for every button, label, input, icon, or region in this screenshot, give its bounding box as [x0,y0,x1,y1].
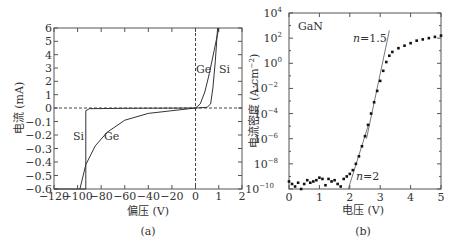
n-value: =2 [363,170,379,183]
label-si-forward: Si [219,63,231,76]
figure: −120−100−80−60−40−200126543210−0.1−0.2−0… [0,0,457,247]
y-tick-label-b: 102 [264,31,282,45]
y-tick-label-a: 6 [45,22,52,35]
data-point [382,70,385,73]
y-tick-exponent: −10 [259,182,274,190]
data-point [409,42,412,45]
data-point [397,47,400,50]
data-point [345,175,348,178]
data-point [367,124,370,127]
x-tick-label-b: 2 [346,191,353,204]
y-tick-label-a: −0.1 [25,116,52,129]
data-point [403,44,406,47]
x-tick-label-a: −100 [62,190,92,203]
y-tick-exponent: −8 [268,157,278,165]
y-tick-label-a: 4 [45,49,52,62]
y-tick-label-a: 5 [45,35,52,48]
x-tick-label-a: −80 [90,190,113,203]
y-axis-label-b: 电流密度 (A·cm−2) [247,54,261,148]
y-tick-exponent: −4 [268,107,279,115]
y-tick-exponent: 2 [278,31,282,39]
panel-b: 01234510410210010−210−410−610−810−10GaNn… [245,6,444,238]
y-tick-label-a: −0.5 [25,170,52,183]
x-tick-label-b: 3 [377,191,384,204]
y-tick-label-b: 100 [264,56,282,70]
data-point [333,179,336,182]
data-point [321,178,324,181]
y-tick-label-b: 10−10 [245,182,274,196]
y-tick-label-a: −0.4 [25,156,52,169]
x-tick-label-a: −40 [137,190,160,203]
ylabel-sup: −2 [248,58,256,68]
data-point [294,185,297,188]
data-point [336,183,339,186]
data-point [388,54,391,57]
y-tick-exponent: 4 [278,6,283,14]
data-point [355,163,358,166]
x-tick-label-a: 0 [192,190,199,203]
data-point [373,101,376,104]
caption-b: (b) [355,225,371,238]
data-point [376,90,379,93]
data-point [349,173,352,176]
data-point [415,39,418,42]
x-tick-label-b: 4 [407,191,414,204]
n-value: =1.5 [360,32,387,45]
data-point [421,38,424,41]
n-symbol: n [353,32,360,45]
data-point [300,188,303,191]
x-tick-label-b: 5 [438,191,445,204]
y-tick-label-b: 104 [264,6,283,20]
data-point [288,180,291,183]
data-point [312,180,315,183]
x-axis-label-b: 电压 (V) [342,204,384,217]
data-point [428,37,431,40]
y-tick-exponent: −6 [268,132,279,140]
data-point [364,135,367,138]
data-point [339,185,342,188]
y-tick-label-a: −0.3 [25,143,52,156]
y-tick-label-a: 3 [45,62,52,75]
y-axis-label-a: 电流 (mA) [12,82,26,134]
label-ge-forward: Ge [196,63,211,76]
data-point [361,145,364,148]
x-tick-label-a: −20 [160,190,183,203]
y-tick-exponent: 0 [278,56,282,64]
data-point [330,180,333,183]
label-n-1-5: n=1.5 [353,32,387,45]
data-point [391,51,394,54]
y-tick-label-b: 10−8 [254,157,278,171]
x-axis-label-a: 偏压 (V) [127,204,169,218]
x-tick-label-a: −60 [113,190,136,203]
y-tick-label-a: −0.2 [25,129,52,142]
label-si-reverse: Si [73,130,85,143]
data-point [342,178,345,181]
data-point [297,181,300,184]
data-point [303,183,306,186]
data-point [327,178,330,181]
data-point [309,181,312,184]
y-tick-label-a: −0.6 [25,183,52,196]
x-tick-label-a: 1 [215,190,222,203]
y-tick-label-a: 0 [45,102,52,115]
ylabel-main: 电流密度 (A·cm [247,68,261,148]
ylabel-end: ) [248,54,261,58]
fit-line-fit-n-1-5 [367,31,390,139]
y-tick-label-a: 2 [45,75,52,88]
data-point [440,34,443,37]
data-point [379,80,382,83]
label-ge-reverse: Ge [104,130,119,143]
x-tick-label-b: 0 [286,191,293,204]
data-point [318,176,321,179]
data-point [306,179,309,182]
label-n-2: n=2 [356,170,379,183]
y-tick-label-a: 1 [45,89,52,102]
data-point [385,61,388,64]
data-point [324,184,327,187]
n-symbol: n [356,170,363,183]
panel-a: −120−100−80−60−40−200126543210−0.1−0.2−0… [12,22,246,238]
caption-a: (a) [140,225,155,238]
data-point [358,155,361,158]
y-tick-exponent: −2 [268,81,278,89]
data-point [434,36,437,39]
